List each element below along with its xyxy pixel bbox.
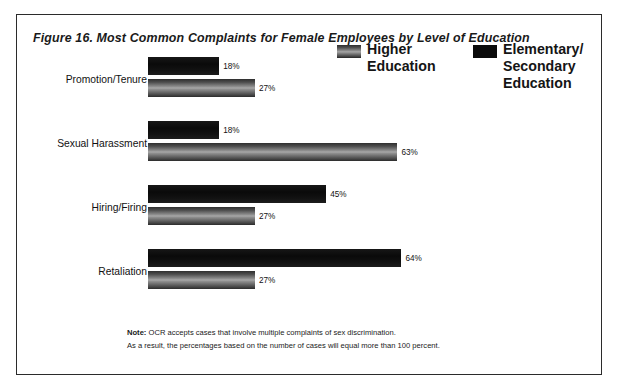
bar-elementary-secondary: [148, 249, 401, 267]
category-label: Hiring/Firing: [91, 202, 147, 213]
bar-value-label: 27%: [255, 84, 275, 93]
category-label: Retaliation: [98, 266, 147, 277]
bar-value-label: 63%: [397, 148, 417, 157]
bar-pair: 64%27%: [148, 247, 603, 295]
chart-note: Note: OCR accepts cases that involve mul…: [127, 327, 567, 352]
category-label: Sexual Harassment: [57, 138, 147, 149]
bar-value-label: 45%: [326, 190, 346, 199]
chart-group: Hiring/Firing45%27%: [17, 183, 603, 231]
bar-elementary-secondary: [148, 185, 326, 203]
bar-higher-education: [148, 79, 255, 97]
bar-value-label: 27%: [255, 212, 275, 221]
chart-note-line-2: As a result, the percentages based on th…: [127, 340, 567, 353]
bar-pair: 18%27%: [148, 55, 603, 103]
chart-note-label: Note:: [127, 328, 146, 337]
bar-elementary-secondary: [148, 121, 219, 139]
chart-group: Sexual Harassment18%63%: [17, 119, 603, 167]
chart-plot-area: Promotion/Tenure18%27%Sexual Harassment1…: [17, 55, 603, 325]
bar-higher-education: [148, 271, 255, 289]
bar-value-label: 18%: [219, 62, 239, 71]
chart-group: Promotion/Tenure18%27%: [17, 55, 603, 103]
chart-note-line-1: Note: OCR accepts cases that involve mul…: [127, 327, 567, 340]
bar-value-label: 27%: [255, 276, 275, 285]
category-label: Promotion/Tenure: [66, 74, 147, 85]
bar-pair: 18%63%: [148, 119, 603, 167]
bar-higher-education: [148, 143, 397, 161]
bar-pair: 45%27%: [148, 183, 603, 231]
chart-note-text-1: OCR accepts cases that involve multiple …: [149, 328, 396, 337]
bar-elementary-secondary: [148, 57, 219, 75]
chart-group: Retaliation64%27%: [17, 247, 603, 295]
bar-value-label: 64%: [401, 254, 421, 263]
bar-value-label: 18%: [219, 126, 239, 135]
figure-frame: Figure 16. Most Common Complaints for Fe…: [16, 14, 602, 375]
bar-higher-education: [148, 207, 255, 225]
